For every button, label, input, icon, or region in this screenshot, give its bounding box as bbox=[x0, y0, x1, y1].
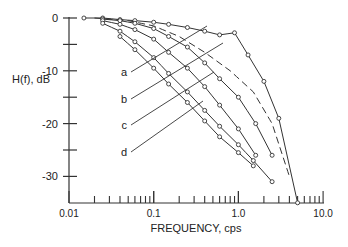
curve-labels: abcd bbox=[121, 26, 223, 158]
data-point bbox=[133, 28, 137, 32]
data-point bbox=[251, 159, 255, 163]
frequency-response-chart: 0-10-20-30 0.010.11.010.0 H(f), dB FREQU… bbox=[0, 0, 348, 247]
data-point bbox=[218, 77, 222, 81]
data-point bbox=[246, 53, 250, 57]
curve-label: c bbox=[122, 119, 128, 131]
x-tick-label: 10.0 bbox=[313, 208, 333, 219]
data-point bbox=[218, 33, 222, 37]
data-point bbox=[152, 27, 156, 31]
data-point bbox=[254, 122, 258, 126]
data-point bbox=[262, 79, 266, 83]
data-point bbox=[218, 124, 222, 128]
data-point bbox=[236, 95, 240, 99]
data-point bbox=[133, 40, 137, 44]
data-point bbox=[118, 22, 122, 26]
curve-label: d bbox=[121, 146, 127, 158]
data-point bbox=[118, 29, 122, 33]
curve-label: b bbox=[121, 93, 127, 105]
data-point bbox=[167, 50, 171, 54]
y-tick-label: 0 bbox=[52, 12, 58, 24]
data-point bbox=[296, 201, 300, 205]
data-point bbox=[167, 22, 171, 26]
data-point bbox=[133, 21, 137, 25]
data-point bbox=[152, 66, 156, 70]
data-point bbox=[185, 45, 189, 49]
x-tick-label: 1.0 bbox=[231, 208, 245, 219]
data-point bbox=[203, 119, 207, 123]
data-point bbox=[203, 108, 207, 112]
curve-top bbox=[84, 18, 298, 203]
data-point bbox=[118, 34, 122, 38]
leader-line bbox=[131, 43, 223, 99]
data-point bbox=[218, 135, 222, 139]
data-point bbox=[203, 29, 207, 33]
data-point bbox=[101, 21, 105, 25]
data-point bbox=[270, 180, 274, 184]
data-point bbox=[185, 66, 189, 70]
data-point bbox=[167, 82, 171, 86]
data-point bbox=[203, 61, 207, 65]
data-point bbox=[251, 164, 255, 168]
data-point bbox=[233, 31, 237, 35]
data-point bbox=[277, 116, 281, 120]
data-point bbox=[152, 20, 156, 24]
data-point bbox=[236, 143, 240, 147]
curve-label: a bbox=[121, 66, 128, 78]
y-tick-label: -30 bbox=[42, 170, 58, 182]
x-axis-ticks: 0.010.11.010.0 bbox=[59, 191, 333, 219]
data-point bbox=[185, 90, 189, 94]
y-axis-ticks: 0-10-20-30 bbox=[42, 12, 77, 182]
x-tick-label: 0.1 bbox=[147, 208, 161, 219]
data-point bbox=[152, 37, 156, 41]
data-point bbox=[236, 151, 240, 155]
x-axis-label: FREQUENCY, cps bbox=[151, 222, 242, 234]
leader-line bbox=[131, 101, 203, 152]
y-tick-label: -20 bbox=[42, 118, 58, 130]
data-point bbox=[167, 34, 171, 38]
data-point bbox=[203, 85, 207, 89]
data-point bbox=[270, 153, 274, 157]
plot-curves bbox=[82, 16, 300, 205]
data-point bbox=[218, 103, 222, 107]
curve-a bbox=[103, 19, 272, 155]
x-tick-label: 0.01 bbox=[59, 208, 79, 219]
data-point bbox=[185, 100, 189, 104]
data-point bbox=[254, 153, 258, 157]
data-point bbox=[185, 26, 189, 30]
data-point bbox=[82, 16, 86, 20]
y-axis-label: H(f), dB bbox=[12, 73, 50, 85]
data-point bbox=[236, 127, 240, 131]
data-point bbox=[133, 48, 137, 52]
